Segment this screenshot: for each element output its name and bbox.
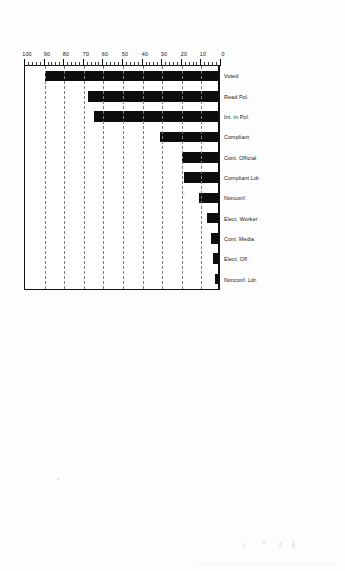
- axis-tick-minor: [177, 62, 178, 66]
- bar-slot: [25, 147, 219, 167]
- gridline: [123, 66, 124, 289]
- gridline: [45, 66, 46, 289]
- bar[interactable]: [45, 71, 219, 82]
- gridline: [162, 66, 163, 289]
- axis-tick-minor: [28, 62, 29, 66]
- axis-tick-minor: [208, 62, 209, 66]
- axis-tick-minor: [196, 62, 197, 66]
- axis-tick-minor: [40, 62, 41, 66]
- chart-top-baseline: [218, 66, 219, 289]
- bar[interactable]: [160, 132, 219, 143]
- axis-tick-major: [161, 59, 162, 66]
- category-label: Compliant Ldr.: [224, 175, 260, 181]
- axis-tick-label: 10: [200, 51, 206, 57]
- bar-slot: [25, 127, 219, 147]
- category-slot: Int. in Pol.: [222, 107, 292, 127]
- axis-tick-minor: [114, 62, 115, 66]
- axis-tick-minor: [153, 62, 154, 66]
- gridline: [64, 66, 65, 289]
- axis-tick-minor: [157, 62, 158, 66]
- axis-tick-minor: [48, 62, 49, 66]
- axis-tick-label: 50: [122, 51, 128, 57]
- gridline: [182, 66, 183, 289]
- axis-tick-label: 70: [83, 51, 89, 57]
- axis-tick-minor: [118, 62, 119, 66]
- axis-tick-minor: [165, 62, 166, 66]
- category-slot: Cont. Media: [222, 229, 292, 249]
- bar[interactable]: [88, 91, 219, 102]
- axis-tick-label: 80: [63, 51, 69, 57]
- chart-top-rotation-wrapper: 0102030405060708090100 Nonconf. Ldr.Elec…: [0, 0, 345, 285]
- scanned-figure-page: 0102030405060708090100 Nonconf. Ldr.Elec…: [0, 0, 345, 571]
- axis-tick-major: [24, 59, 25, 66]
- axis-tick-minor: [204, 62, 205, 66]
- axis-tick-label: 20: [181, 51, 187, 57]
- chart-top: 0102030405060708090100 Nonconf. Ldr.Elec…: [0, 0, 345, 285]
- bar-slot: [25, 107, 219, 127]
- category-label: Elect. Worker: [224, 216, 258, 222]
- axis-tick-minor: [138, 62, 139, 66]
- axis-tick-minor: [130, 62, 131, 66]
- scan-speck: [57, 478, 59, 480]
- axis-tick-minor: [216, 62, 217, 66]
- scan-smudge: [262, 541, 266, 544]
- category-slot: Elect. Off.: [222, 249, 292, 269]
- axis-tick-minor: [95, 62, 96, 66]
- axis-tick-minor: [32, 62, 33, 66]
- axis-tick-major: [44, 59, 45, 66]
- category-label: Compliant: [224, 134, 249, 140]
- axis-tick-major: [142, 59, 143, 66]
- bar[interactable]: [182, 152, 219, 163]
- axis-tick-minor: [185, 62, 186, 66]
- scan-edge-line: [196, 563, 336, 564]
- bar-slot: [25, 208, 219, 228]
- axis-tick-minor: [106, 62, 107, 66]
- axis-tick-minor: [36, 62, 37, 66]
- scan-smudge: [279, 542, 282, 547]
- chart-bottom: 0102030405060708090100 Pers. ViolenceDam…: [0, 285, 345, 571]
- scan-smudge: [243, 543, 246, 547]
- axis-tick-minor: [134, 62, 135, 66]
- axis-tick-major: [200, 59, 201, 66]
- category-slot: Compliant Ldr.: [222, 168, 292, 188]
- chart-bottom-rotation-wrapper: 0102030405060708090100 Pers. ViolenceDam…: [0, 285, 345, 571]
- axis-tick-minor: [71, 62, 72, 66]
- chart-top-plot-area: [24, 66, 220, 290]
- axis-tick-minor: [149, 62, 150, 66]
- category-label: Cont. Media: [224, 236, 254, 242]
- scan-smudge: [292, 541, 295, 548]
- bar-slot: [25, 188, 219, 208]
- category-label: Elect. Off.: [224, 256, 249, 262]
- gridline: [84, 66, 85, 289]
- chart-top-category-axis: Nonconf. Ldr.Elect. Off.Cont. MediaElect…: [222, 66, 292, 290]
- axis-tick-minor: [212, 62, 213, 66]
- category-label: Read Pol.: [224, 94, 249, 100]
- bar-slot: [25, 167, 219, 187]
- axis-tick-minor: [126, 62, 127, 66]
- chart-top-value-axis: 0102030405060708090100: [24, 44, 220, 66]
- bar[interactable]: [94, 111, 219, 122]
- axis-tick-minor: [189, 62, 190, 66]
- axis-tick-minor: [169, 62, 170, 66]
- category-label: Nonconf. Ldr.: [224, 277, 257, 283]
- category-slot: Elect. Worker: [222, 209, 292, 229]
- bar-slot: [25, 66, 219, 86]
- gridline: [143, 66, 144, 289]
- axis-tick-label: 30: [161, 51, 167, 57]
- category-slot: Compliant: [222, 127, 292, 147]
- category-label: Voted: [224, 73, 238, 79]
- category-slot: Nonconf.: [222, 188, 292, 208]
- bar-slot: [25, 86, 219, 106]
- axis-tick-minor: [87, 62, 88, 66]
- axis-tick-minor: [146, 62, 147, 66]
- axis-tick-major: [220, 59, 221, 66]
- axis-tick-minor: [79, 62, 80, 66]
- axis-tick-minor: [91, 62, 92, 66]
- axis-tick-minor: [67, 62, 68, 66]
- axis-tick-label: 60: [102, 51, 108, 57]
- gridline: [201, 66, 202, 289]
- axis-tick-minor: [98, 62, 99, 66]
- axis-tick-label: 100: [22, 51, 32, 57]
- category-label: Int. in Pol.: [224, 114, 249, 120]
- axis-tick-label: 40: [141, 51, 147, 57]
